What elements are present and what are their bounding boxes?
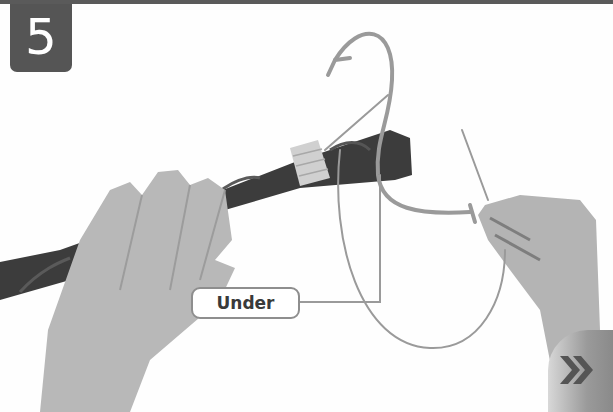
under-callout-label: Under — [191, 287, 300, 319]
double-chevron-right-icon[interactable] — [556, 352, 596, 388]
path-guide — [300, 34, 505, 348]
knot-illustration — [0, 0, 613, 412]
instruction-step: 5 Under — [0, 0, 613, 412]
step-number-badge: 5 — [10, 4, 72, 72]
